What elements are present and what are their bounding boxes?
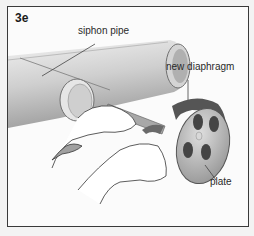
label-new-diaphragm: new diaphragm <box>166 61 234 72</box>
figure-number: 3e <box>15 11 28 25</box>
label-plate: plate <box>210 176 232 187</box>
label-siphon-pipe: siphon pipe <box>78 25 129 36</box>
